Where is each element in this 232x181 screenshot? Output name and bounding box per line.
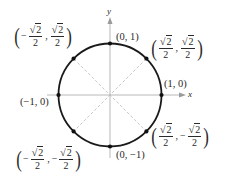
point-sqrt2-sqrt2 xyxy=(144,57,148,61)
numerator: √2 xyxy=(159,125,173,137)
fraction: √2 2 xyxy=(188,125,202,148)
point-negsqrt2-negsqrt2 xyxy=(72,129,76,133)
denominator: 2 xyxy=(35,160,40,171)
point-sqrt2-negsqrt2 xyxy=(144,129,148,133)
label-negsqrt2-negsqrt2: ( − √2 2 , − √2 2 ) xyxy=(15,147,82,171)
right-paren: ) xyxy=(197,36,203,60)
numerator: √2 xyxy=(59,148,73,160)
y-axis-arrow-icon xyxy=(108,17,113,24)
minus-sign: − xyxy=(23,154,29,164)
minus-sign: − xyxy=(21,31,27,41)
point-negsqrt2-sqrt2 xyxy=(72,57,76,61)
x-axis-label: x xyxy=(188,90,192,99)
numerator: √2 xyxy=(51,25,65,37)
point-neg1-0 xyxy=(56,93,60,97)
numerator: √2 xyxy=(31,148,45,160)
left-paren: ( xyxy=(16,147,22,171)
fraction: √2 2 xyxy=(181,37,195,60)
radicand: 2 xyxy=(194,123,200,135)
numerator: √2 xyxy=(29,25,43,37)
point-0-1 xyxy=(108,41,112,45)
radicand: 2 xyxy=(57,23,63,35)
label-negsqrt2-sqrt2: ( − √2 2 , √2 2 ) xyxy=(13,24,73,48)
radicand: 2 xyxy=(166,123,172,135)
left-paren: ( xyxy=(151,124,157,148)
denominator: 2 xyxy=(64,160,69,171)
sqrt-icon: √ xyxy=(160,124,166,135)
denominator: 2 xyxy=(185,49,190,60)
fraction: √2 2 xyxy=(159,125,173,148)
comma: , xyxy=(47,154,50,164)
fraction: √2 2 xyxy=(31,148,45,171)
point-1-0 xyxy=(159,93,163,97)
label-0-neg1: (0, −1) xyxy=(116,150,145,161)
left-paren: ( xyxy=(14,24,20,48)
fraction: √2 2 xyxy=(59,148,73,171)
point-0-neg1 xyxy=(108,144,112,148)
numerator: √2 xyxy=(181,37,195,49)
radicand: 2 xyxy=(188,35,194,47)
label-0-1: (0, 1) xyxy=(116,32,139,43)
label-neg1-0: (−1, 0) xyxy=(20,97,49,108)
fraction: √2 2 xyxy=(51,25,65,48)
label-1-0: (1, 0) xyxy=(164,79,187,90)
fraction: √2 2 xyxy=(29,25,43,48)
y-axis-label: y xyxy=(107,7,111,16)
denominator: 2 xyxy=(55,37,60,48)
radicand: 2 xyxy=(35,23,41,35)
right-paren: ) xyxy=(203,124,209,148)
x-axis-arrow-icon xyxy=(179,93,186,98)
comma: , xyxy=(45,31,48,41)
sqrt-icon: √ xyxy=(182,36,188,47)
sqrt-icon: √ xyxy=(60,147,66,158)
denominator: 2 xyxy=(192,137,197,148)
right-paren: ) xyxy=(66,24,72,48)
comma: , xyxy=(176,43,179,53)
numerator: √2 xyxy=(188,125,202,137)
label-sqrt2-sqrt2: ( √2 2 , √2 2 ) xyxy=(150,36,204,60)
label-sqrt2-negsqrt2: ( √2 2 , − √2 2 ) xyxy=(150,124,210,148)
minus-sign: − xyxy=(52,154,58,164)
sqrt-icon: √ xyxy=(160,36,166,47)
comma: , xyxy=(176,131,179,141)
denominator: 2 xyxy=(163,49,168,60)
denominator: 2 xyxy=(33,37,38,48)
fraction: √2 2 xyxy=(159,37,173,60)
numerator: √2 xyxy=(159,37,173,49)
denominator: 2 xyxy=(163,137,168,148)
minus-sign: − xyxy=(180,131,186,141)
radicand: 2 xyxy=(66,146,72,158)
right-paren: ) xyxy=(75,147,81,171)
left-paren: ( xyxy=(151,36,157,60)
radicand: 2 xyxy=(166,35,172,47)
radicand: 2 xyxy=(37,146,43,158)
